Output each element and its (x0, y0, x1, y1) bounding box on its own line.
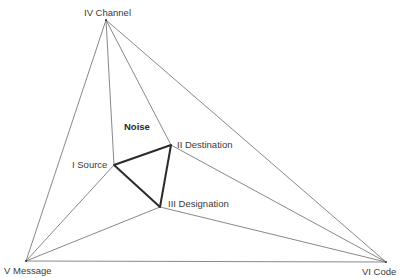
edge-channel-code (106, 20, 386, 262)
vertex-source (113, 164, 115, 166)
vertex-message (25, 260, 27, 262)
node-label-destination: II Destination (177, 139, 232, 150)
edge-message-designation (26, 207, 160, 261)
noise-annotation: Noise (124, 121, 150, 132)
triangle-edge-designation-source (114, 165, 160, 207)
edge-message-code (26, 261, 386, 262)
node-label-message: V Message (4, 265, 52, 276)
edge-channel-source (106, 20, 114, 165)
node-label-code: VI Code (362, 266, 396, 277)
vertex-channel (105, 19, 107, 21)
communication-model-diagram: IV Channel I Source II Destination III D… (0, 0, 406, 278)
vertex-designation (159, 206, 161, 208)
edge-channel-message (26, 20, 106, 261)
edge-message-source (26, 165, 114, 261)
node-label-designation: III Designation (168, 198, 229, 209)
vertex-destination (170, 144, 172, 146)
triangle-edge-source-destination (114, 145, 171, 165)
node-label-channel: IV Channel (84, 7, 131, 18)
inner-triangle (114, 145, 171, 207)
edge-code-designation (160, 207, 386, 262)
vertex-code (385, 261, 387, 263)
node-label-source: I Source (72, 159, 107, 170)
